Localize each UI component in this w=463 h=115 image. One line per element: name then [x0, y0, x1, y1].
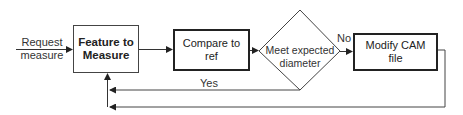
decision-label-line1: Meet expected — [259, 44, 341, 57]
input-label: Request measure — [14, 36, 70, 62]
feature-to-measure-box: Feature to Measure — [73, 25, 139, 73]
modify-label-line2: file — [366, 52, 426, 65]
feature-label-line2: Measure — [78, 49, 134, 62]
input-label-line1: Request — [14, 36, 70, 49]
decision-label-line2: diameter — [259, 57, 341, 70]
yes-label: Yes — [196, 77, 222, 90]
modify-cam-file-box: Modify CAM file — [353, 33, 438, 71]
input-label-line2: measure — [14, 49, 70, 62]
decision-label: Meet expected diameter — [259, 44, 341, 70]
feature-label-line1: Feature to — [78, 36, 134, 49]
compare-to-ref-box: Compare to ref — [173, 29, 250, 71]
compare-label-line1: Compare to — [183, 37, 240, 50]
compare-label-line2: ref — [183, 50, 240, 63]
modify-label-line1: Modify CAM — [366, 39, 426, 52]
no-label: No — [334, 32, 354, 45]
